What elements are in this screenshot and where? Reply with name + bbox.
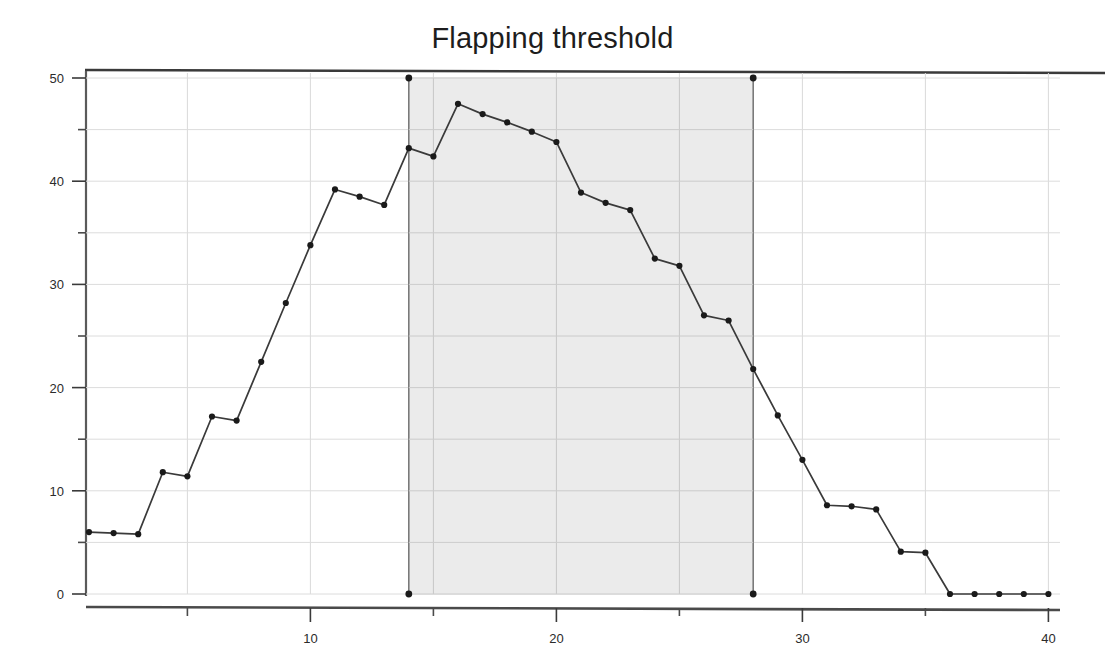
y-tick-label: 20: [50, 381, 64, 396]
y-tick-label: 30: [50, 277, 64, 292]
data-point-marker: [234, 418, 240, 424]
data-point-marker: [775, 412, 781, 418]
data-point-marker: [676, 263, 682, 269]
data-point-marker: [86, 529, 92, 535]
data-point-marker: [357, 194, 363, 200]
data-point-marker: [332, 186, 338, 192]
data-point-marker: [160, 469, 166, 475]
data-point-marker: [947, 591, 953, 597]
data-point-marker: [184, 473, 190, 479]
data-point-marker: [652, 256, 658, 262]
data-point-marker: [111, 530, 117, 536]
data-point-marker: [750, 366, 756, 372]
x-tick-label: 30: [795, 631, 809, 646]
x-tick-label: 40: [1041, 631, 1055, 646]
data-point-marker: [578, 189, 584, 195]
y-tick-label: 10: [50, 484, 64, 499]
data-point-marker: [209, 413, 215, 419]
data-point-marker: [283, 300, 289, 306]
data-point-marker: [873, 506, 879, 512]
data-point-marker: [972, 591, 978, 597]
data-point-marker: [799, 457, 805, 463]
band-corner-marker: [750, 591, 757, 598]
data-point-marker: [135, 531, 141, 537]
data-point-marker: [406, 145, 412, 151]
data-point-marker: [898, 549, 904, 555]
data-point-marker: [726, 317, 732, 323]
data-point-marker: [603, 200, 609, 206]
data-point-marker: [627, 207, 633, 213]
band-corner-marker: [750, 75, 757, 82]
band-corner-marker: [405, 75, 412, 82]
data-point-marker: [553, 139, 559, 145]
data-point-marker: [381, 202, 387, 208]
data-point-marker: [922, 550, 928, 556]
data-point-marker: [1045, 591, 1051, 597]
data-point-marker: [824, 502, 830, 508]
data-point-marker: [849, 503, 855, 509]
y-tick-label: 0: [57, 587, 64, 602]
band-corner-marker: [405, 591, 412, 598]
data-point-marker: [1021, 591, 1027, 597]
data-point-marker: [258, 359, 264, 365]
data-point-marker: [307, 242, 313, 248]
data-point-marker: [480, 111, 486, 117]
data-point-marker: [455, 101, 461, 107]
data-point-marker: [430, 153, 436, 159]
x-tick-label: 10: [303, 631, 317, 646]
chart-figure: Flapping threshold 0102030405010203040: [0, 0, 1105, 672]
x-tick-label: 20: [549, 631, 563, 646]
data-point-marker: [504, 119, 510, 125]
y-tick-label: 40: [50, 174, 64, 189]
data-point-marker: [529, 129, 535, 135]
data-point-marker: [996, 591, 1002, 597]
line-chart-plot: 0102030405010203040: [0, 0, 1105, 672]
y-tick-label: 50: [50, 71, 64, 86]
highlight-band: [409, 78, 753, 594]
data-point-marker: [701, 312, 707, 318]
